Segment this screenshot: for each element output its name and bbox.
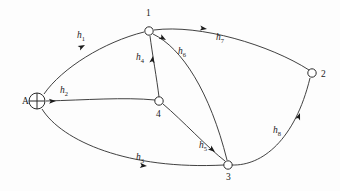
arrowhead-h7 bbox=[200, 25, 208, 31]
edge-h8 bbox=[232, 78, 310, 165]
arrowhead-h4 bbox=[149, 56, 155, 64]
edge-label-h1: h1 bbox=[77, 30, 85, 42]
edge-label-h6: h6 bbox=[178, 46, 187, 58]
arrowheads-layer bbox=[49, 25, 303, 168]
node-label-A: A bbox=[22, 96, 29, 106]
edge-h4 bbox=[150, 36, 159, 97]
arrowhead-h1 bbox=[78, 43, 87, 51]
edge-h5 bbox=[163, 104, 225, 161]
edges-layer bbox=[42, 29, 310, 166]
edge-label-h2: h2 bbox=[60, 85, 68, 97]
node-3[interactable] bbox=[224, 161, 232, 169]
node-A[interactable] bbox=[29, 93, 45, 109]
node-1[interactable] bbox=[145, 27, 153, 35]
node-label-4: 4 bbox=[156, 109, 161, 119]
edge-h2 bbox=[46, 99, 155, 101]
node-label-3: 3 bbox=[226, 172, 231, 182]
edge-h1 bbox=[44, 32, 144, 94]
edge-h6 bbox=[153, 34, 227, 160]
node-4[interactable] bbox=[155, 97, 163, 105]
edge-labels-layer: h1h2h3h4h5h6h7h8 bbox=[60, 30, 281, 164]
edge-label-h8: h8 bbox=[273, 125, 281, 137]
node-label-1: 1 bbox=[146, 8, 151, 18]
arrowhead-h3 bbox=[140, 163, 147, 169]
node-label-2: 2 bbox=[321, 69, 326, 79]
graph-diagram: h1h2h3h4h5h6h7h8 A1234 bbox=[0, 0, 340, 191]
node-2[interactable] bbox=[308, 69, 316, 77]
graph-canvas: h1h2h3h4h5h6h7h8 A1234 bbox=[0, 0, 340, 191]
arrowhead-h6 bbox=[159, 34, 168, 42]
edge-label-h7: h7 bbox=[216, 32, 225, 44]
edge-h3 bbox=[42, 109, 224, 166]
edge-label-h5: h5 bbox=[199, 140, 207, 152]
edge-label-h4: h4 bbox=[136, 52, 145, 64]
edge-label-h3: h3 bbox=[136, 152, 144, 164]
